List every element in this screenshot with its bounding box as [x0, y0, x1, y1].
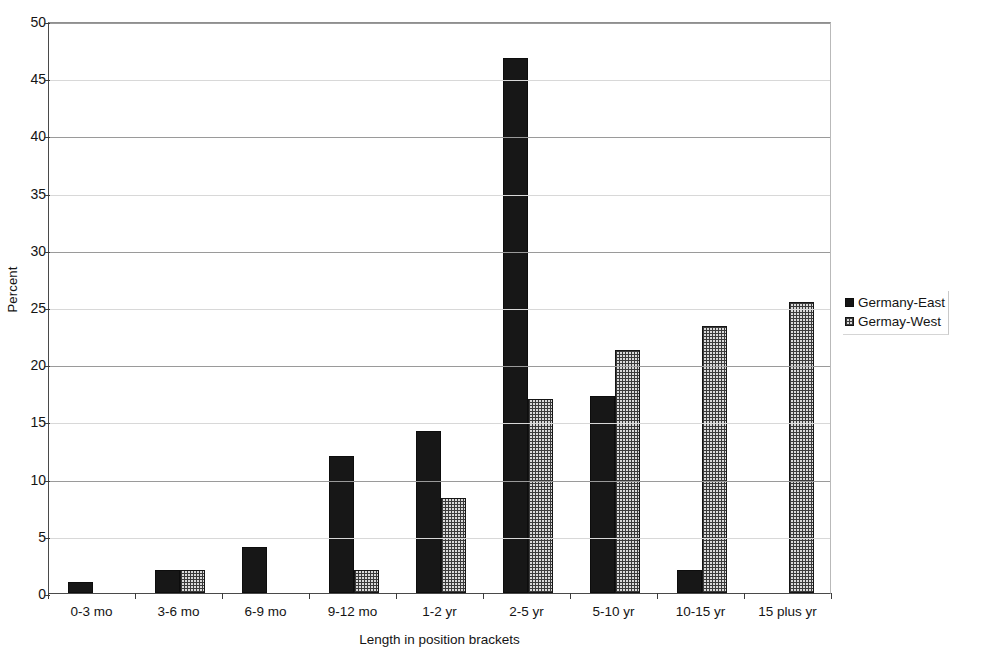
gridline — [49, 80, 830, 81]
x-axis-tick — [570, 593, 571, 599]
bar-west — [528, 399, 553, 593]
bar-group — [745, 23, 832, 593]
gridline — [49, 423, 830, 424]
y-axis-tick-label: 30 — [0, 244, 46, 258]
bar-group — [310, 23, 397, 593]
bar-groups — [49, 23, 830, 593]
x-axis-tick — [744, 593, 745, 599]
bar-chart: Percent 05101520253035404550 0-3 mo3-6 m… — [0, 0, 992, 664]
y-axis-tick-label: 45 — [0, 72, 46, 86]
x-axis-tick-label: 2-5 yr — [483, 604, 570, 620]
x-axis-tick — [831, 593, 832, 599]
legend-item: Germany-East — [845, 293, 945, 312]
bar-west — [441, 498, 466, 593]
y-axis-tick-label: 40 — [0, 129, 46, 143]
bar-east — [329, 456, 354, 593]
y-axis-tick — [44, 137, 50, 138]
gridline — [49, 23, 830, 24]
y-axis-tick — [44, 80, 50, 81]
bar-east — [242, 547, 267, 593]
bar-east — [677, 570, 702, 593]
y-axis-tick — [44, 481, 50, 482]
x-axis-tick — [222, 593, 223, 599]
x-axis-tick-label: 1-2 yr — [396, 604, 483, 620]
x-axis-tick — [309, 593, 310, 599]
bar-group — [484, 23, 571, 593]
bar-group — [223, 23, 310, 593]
y-axis-tick-label: 35 — [0, 187, 46, 201]
gridline — [49, 481, 830, 482]
x-axis-tick-label: 10-15 yr — [657, 604, 744, 620]
gridline — [49, 309, 830, 310]
x-axis-tick — [48, 593, 49, 599]
x-axis-tick-label: 9-12 mo — [309, 604, 396, 620]
y-axis-tick-labels: 05101520253035404550 — [0, 0, 46, 664]
bar-group — [658, 23, 745, 593]
bar-west — [180, 570, 205, 593]
y-axis-tick-label: 5 — [0, 530, 46, 544]
x-axis-tick-label: 15 plus yr — [744, 604, 831, 620]
bar-group — [136, 23, 223, 593]
y-axis-tick-label: 20 — [0, 358, 46, 372]
y-axis-tick — [44, 423, 50, 424]
gridline — [49, 366, 830, 367]
x-axis-ticks — [48, 593, 831, 601]
bar-west — [615, 350, 640, 593]
y-axis-tick — [44, 252, 50, 253]
x-axis-tick-label: 0-3 mo — [48, 604, 135, 620]
bar-group — [571, 23, 658, 593]
gridline — [49, 538, 830, 539]
y-axis-tick-label: 15 — [0, 415, 46, 429]
x-axis-tick — [135, 593, 136, 599]
y-axis-tick — [44, 195, 50, 196]
x-axis-tick-label: 6-9 mo — [222, 604, 309, 620]
gridline — [49, 195, 830, 196]
x-axis-tick-label: 5-10 yr — [570, 604, 657, 620]
legend-item-label: Germany-East — [858, 295, 945, 310]
x-axis-tick — [483, 593, 484, 599]
bar-east — [155, 570, 180, 593]
y-axis-tick-label: 0 — [0, 587, 46, 601]
legend-item-label: Germay-West — [858, 314, 941, 329]
bar-east — [590, 396, 615, 593]
plot-area — [48, 22, 831, 594]
y-axis-tick — [44, 309, 50, 310]
y-axis-tick-label: 25 — [0, 301, 46, 315]
x-axis-tick-labels: 0-3 mo3-6 mo6-9 mo9-12 mo1-2 yr2-5 yr5-1… — [48, 604, 831, 628]
dotted-grid-swatch — [845, 317, 854, 326]
x-axis-tick-label: 3-6 mo — [135, 604, 222, 620]
gridline — [49, 137, 830, 138]
y-axis-tick — [44, 366, 50, 367]
y-axis-tick-label: 50 — [0, 15, 46, 29]
y-axis-tick — [44, 23, 50, 24]
bar-group — [49, 23, 136, 593]
bar-group — [397, 23, 484, 593]
y-axis-tick — [44, 538, 50, 539]
bar-west — [354, 570, 379, 593]
x-axis-tick — [657, 593, 658, 599]
gridline — [49, 252, 830, 253]
solid-black-swatch — [845, 298, 854, 307]
x-axis-tick — [396, 593, 397, 599]
bar-east — [68, 582, 93, 593]
y-axis-tick-label: 10 — [0, 473, 46, 487]
legend-item: Germay-West — [845, 312, 945, 331]
bar-west — [789, 302, 814, 593]
bar-east — [416, 431, 441, 593]
chart-legend: Germany-EastGermay-West — [843, 291, 949, 335]
x-axis-title: Length in position brackets — [48, 632, 831, 647]
